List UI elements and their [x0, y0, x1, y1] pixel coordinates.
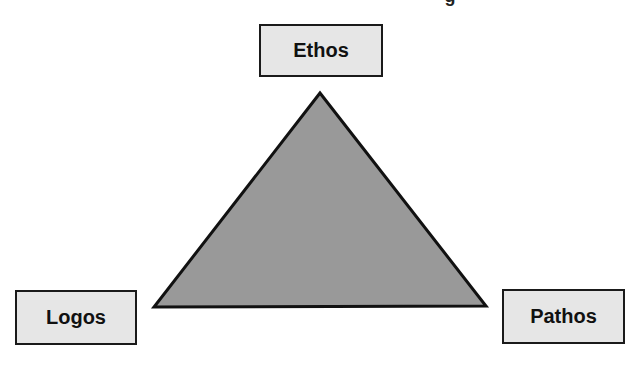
- logos-box: Logos: [15, 290, 137, 345]
- triangle-shape: [154, 93, 486, 307]
- logos-label: Logos: [46, 306, 106, 329]
- ethos-label: Ethos: [293, 39, 349, 62]
- ethos-box: Ethos: [259, 24, 383, 77]
- pathos-label: Pathos: [530, 305, 597, 328]
- pathos-box: Pathos: [502, 289, 625, 344]
